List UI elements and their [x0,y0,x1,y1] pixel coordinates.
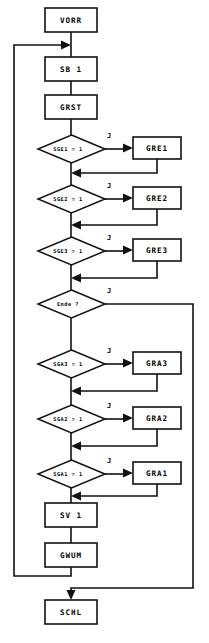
arrowhead-gra1-return [71,492,81,501]
node-gra1[interactable] [133,462,181,484]
arrowhead-gre1-in [123,144,133,153]
edge-gra3-return [78,374,157,391]
arrowhead-loopback-in [61,41,71,50]
arrowhead-gre2-in [123,194,133,203]
arrowhead-gre2-return [71,221,81,230]
arrowhead-gre1-return [71,169,81,178]
node-grst[interactable] [45,95,97,119]
node-sge3[interactable] [38,237,105,265]
edge-gra1-return [78,484,157,496]
edge-gre1-return [78,159,157,173]
arrowhead-gra1-in [123,469,133,478]
node-gra3[interactable] [133,352,181,374]
node-schl[interactable] [45,600,97,624]
node-vorr[interactable] [45,8,97,32]
node-sge1[interactable] [38,135,105,163]
edge-gra2-return [78,429,157,446]
arrowhead-gra2-in [123,414,133,423]
flowchart-canvas: VORR SB 1 GRST SGE1 = 1 GRE1 SGE2 = 1 GR… [0,0,209,643]
node-sge2[interactable] [38,185,105,213]
node-gre2[interactable] [133,187,181,209]
arrowhead-gra2-return [71,442,81,451]
arrowhead-gre3-return [71,274,81,283]
edge-gre3-return [78,261,157,278]
arrowhead-gra3-return [71,387,81,396]
node-ende[interactable] [38,290,105,318]
node-gre3[interactable] [133,239,181,261]
node-sv1[interactable] [45,503,97,527]
node-sga1[interactable] [38,460,105,488]
arrowhead-schl-in [67,590,76,600]
edge-gre2-return [78,209,157,225]
node-gre1[interactable] [133,137,181,159]
arrowhead-gre3-in [123,246,133,255]
node-gra2[interactable] [133,407,181,429]
node-sga3[interactable] [38,350,105,378]
arrowhead-gra3-in [123,359,133,368]
node-gwum[interactable] [45,543,97,567]
node-sga2[interactable] [38,405,105,433]
flowchart-graphics [0,0,209,643]
node-sb1[interactable] [45,57,97,81]
